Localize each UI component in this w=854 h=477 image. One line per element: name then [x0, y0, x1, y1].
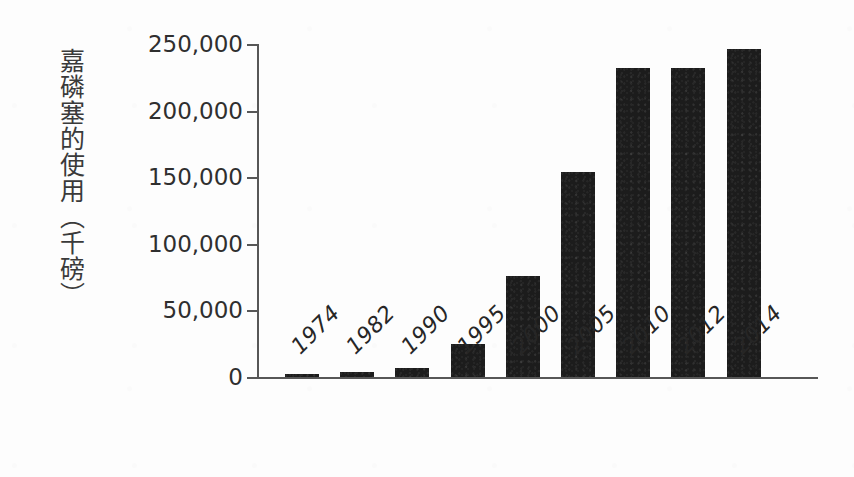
y-axis-tick-mark — [247, 377, 258, 379]
y-axis-tick-label: 150,000 — [148, 164, 243, 190]
y-axis-tick-label: 0 — [228, 364, 243, 390]
y-axis-tick-mark — [247, 44, 258, 46]
y-axis-tick-label: 200,000 — [148, 98, 243, 124]
y-axis-tick-mark — [247, 310, 258, 312]
y-axis-line — [257, 44, 259, 377]
y-axis-title: 嘉磷塞的使用（千磅） — [38, 48, 84, 308]
y-axis-tick-mark — [247, 111, 258, 113]
bar — [395, 368, 429, 377]
bar — [340, 372, 374, 377]
y-axis-tick-label: 250,000 — [148, 31, 243, 57]
y-axis-tick-mark — [247, 244, 258, 246]
bar — [285, 374, 319, 377]
x-axis-line — [257, 377, 818, 379]
bar-chart-figure: 嘉磷塞的使用（千磅） 050,000100,000150,000200,0002… — [0, 0, 854, 477]
y-axis-tick-label: 100,000 — [148, 231, 243, 257]
y-axis-tick-label: 50,000 — [163, 297, 243, 323]
y-axis-tick-mark — [247, 177, 258, 179]
